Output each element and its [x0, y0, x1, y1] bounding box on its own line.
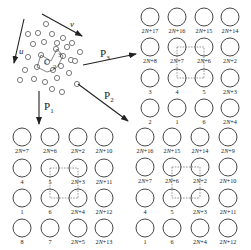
site-label: 2N+7 [170, 57, 184, 64]
site-label: 2N+7 [138, 177, 152, 184]
lattice-site [163, 128, 181, 146]
lattice-site [95, 219, 113, 237]
site-label: 2N+3 [193, 208, 207, 215]
site-label: 2N+3 [71, 178, 85, 185]
site-label: 2N+2 [71, 147, 85, 154]
atom [31, 76, 36, 81]
lattice-site [221, 99, 239, 117]
lattice-site [69, 128, 87, 146]
atom [66, 70, 71, 75]
site-label: 2N+4 [71, 208, 85, 215]
atom [35, 30, 40, 35]
lattice-site [136, 219, 154, 237]
atom [49, 86, 54, 91]
atom [17, 77, 22, 82]
site-label: 2N+2 [223, 57, 237, 64]
site-label: 2N+16 [169, 27, 186, 34]
grid-p3: 2N+172N+162N+152N+142N+82N+72N+62N+23452… [141, 8, 239, 125]
atom [49, 31, 54, 36]
site-label: 2N+17 [142, 27, 159, 34]
cluster-atom-number: 3 [58, 51, 61, 58]
lattice-site [221, 69, 239, 87]
cluster-atom-number: 1 [44, 58, 47, 65]
site-label: 2N+12 [220, 238, 237, 245]
site-label: 2 [148, 118, 151, 125]
lattice-site [41, 219, 59, 237]
lattice-site [219, 128, 237, 146]
lattice-diagram: 123 u v P1 P2 P3 2N+172N+162N+152N+142N+… [0, 0, 251, 250]
lattice-site [141, 38, 159, 56]
lattice-site [219, 219, 237, 237]
vector-u-label: u [19, 46, 24, 56]
site-label: 4 [175, 88, 178, 95]
arrow-p2-label: P2 [104, 89, 114, 104]
atom [60, 35, 65, 40]
projection-grids: 2N+172N+162N+152N+142N+82N+72N+62N+23452… [13, 8, 239, 245]
lattice-site [13, 189, 31, 207]
site-label: 4 [143, 208, 146, 215]
site-label: 2N+8 [143, 57, 157, 64]
atom [22, 67, 27, 72]
atom [54, 75, 59, 80]
atom [54, 40, 59, 45]
lattice-site [41, 128, 59, 146]
atom [25, 54, 30, 59]
atom [72, 58, 77, 63]
site-label: 2N+4 [223, 118, 237, 125]
atom [43, 21, 48, 26]
atom-cluster: 123 [17, 21, 82, 94]
atom [69, 40, 74, 45]
site-label: 2N+15 [196, 27, 213, 34]
site-label: 2N+6 [43, 147, 57, 154]
lattice-site [163, 219, 181, 237]
lattice-site [221, 38, 239, 56]
atom [59, 89, 64, 94]
site-label: 2N+14 [222, 27, 239, 34]
site-label: 2N+5 [71, 238, 85, 245]
site-label: 2N+16 [137, 147, 154, 154]
arrow-p1-label: P1 [44, 100, 54, 115]
atom [30, 41, 35, 46]
lattice-site [136, 158, 154, 176]
lattice-site [141, 99, 159, 117]
lattice-site [69, 219, 87, 237]
site-label: 2N+11 [96, 178, 113, 185]
site-label: 2N+7 [15, 147, 29, 154]
site-label: 1 [175, 118, 178, 125]
atom [41, 39, 46, 44]
site-label: 8 [20, 238, 23, 245]
site-label: 2N+11 [220, 208, 237, 215]
vector-v-label: v [70, 19, 74, 29]
arrow-p3-label: P3 [100, 47, 110, 62]
lattice-site [141, 8, 159, 26]
lattice-site [141, 69, 159, 87]
lattice-site [136, 189, 154, 207]
grid-p2: 2N+162N+152N+142N+92N+72N+62N+22N+10452N… [136, 128, 237, 245]
site-label: 4 [20, 178, 23, 185]
lattice-site [13, 128, 31, 146]
lattice-site [95, 159, 113, 177]
lattice-site [136, 128, 154, 146]
vector-u-arrow [14, 19, 24, 63]
site-label: 5 [202, 88, 205, 95]
atom [25, 31, 30, 36]
site-label: 6 [48, 208, 51, 215]
atom [77, 49, 82, 54]
site-label: 1 [20, 208, 23, 215]
site-label: 2N+2 [193, 177, 207, 184]
site-label: 1 [143, 238, 146, 245]
lattice-site [95, 189, 113, 207]
lattice-site [195, 99, 213, 117]
site-label: 2N+14 [192, 147, 209, 154]
site-label: 3 [148, 88, 151, 95]
site-label: 2N+6 [165, 177, 179, 184]
site-label: 2N+3 [223, 88, 237, 95]
arrow-p2 [78, 84, 128, 121]
lattice-site [219, 189, 237, 207]
site-label: 7 [48, 238, 51, 245]
lattice-site [13, 219, 31, 237]
site-label: 2N+4 [193, 238, 207, 245]
grid-p1: 2N+72N+62N+22N+10452N+32N+11162N+42N+128… [13, 128, 113, 245]
site-label: 2N+15 [164, 147, 181, 154]
lattice-site [191, 128, 209, 146]
